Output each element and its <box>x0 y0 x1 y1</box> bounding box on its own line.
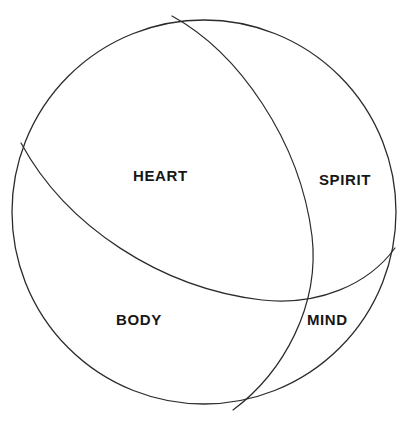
sphere-diagram-svg <box>0 0 399 421</box>
region-label-spirit: SPIRIT <box>319 172 371 187</box>
region-label-heart: HEART <box>133 168 188 183</box>
region-label-mind: MIND <box>307 312 348 327</box>
sphere-outline <box>12 20 396 404</box>
sphere-diagram: HEART SPIRIT BODY MIND <box>0 0 399 421</box>
region-label-body: BODY <box>116 312 162 327</box>
